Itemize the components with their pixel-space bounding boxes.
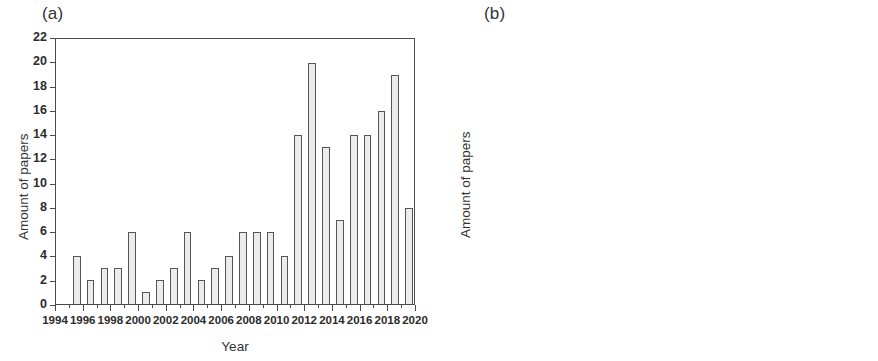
panel-b-y-axis-title: Amount of papers <box>458 131 473 238</box>
x-axis-major-tick <box>360 305 361 311</box>
x-axis-major-tick <box>221 305 222 311</box>
x-axis-major-tick <box>415 305 416 311</box>
x-axis-major-tick <box>83 305 84 311</box>
x-axis-major-tick <box>193 305 194 311</box>
x-axis-tick-label: 2006 <box>208 314 234 326</box>
x-axis-tick-label: 2014 <box>319 314 345 326</box>
bar <box>294 135 302 304</box>
x-axis-tick-label: 1994 <box>42 314 68 326</box>
y-axis-tick-label: 10 <box>11 176 47 190</box>
bar <box>170 268 178 304</box>
x-axis-tick-label: 2002 <box>153 314 179 326</box>
x-axis-major-tick <box>55 305 56 311</box>
x-axis-tick-label: 2008 <box>236 314 262 326</box>
bar <box>184 232 192 304</box>
y-axis-tick <box>50 38 55 39</box>
x-axis-minor-tick <box>263 305 264 308</box>
x-axis-major-tick <box>277 305 278 311</box>
x-axis-minor-tick <box>207 305 208 308</box>
y-axis-tick-label: 16 <box>11 103 47 117</box>
panel-a: (a) Amount of papers Year 02468101214161… <box>0 0 440 361</box>
bar <box>281 256 289 304</box>
x-axis-major-tick <box>138 305 139 311</box>
x-axis-tick-label: 1998 <box>98 314 124 326</box>
x-axis-minor-tick <box>124 305 125 308</box>
bar <box>128 232 136 304</box>
y-axis-tick-label: 8 <box>11 200 47 214</box>
x-axis-tick-label: 1996 <box>70 314 96 326</box>
bar <box>101 268 109 304</box>
panel-a-x-axis-title: Year <box>55 339 415 354</box>
bar <box>114 268 122 304</box>
bar <box>267 232 275 304</box>
x-axis-tick-label: 2020 <box>402 314 428 326</box>
y-axis-tick <box>50 281 55 282</box>
y-axis-tick-label: 2 <box>11 273 47 287</box>
y-axis-tick-label: 0 <box>11 297 47 311</box>
bar <box>142 292 150 304</box>
figure-two-bar-charts: (a) Amount of papers Year 02468101214161… <box>0 0 878 361</box>
bar <box>322 147 330 304</box>
x-axis-major-tick <box>332 305 333 311</box>
x-axis-major-tick <box>249 305 250 311</box>
panel-b: (b) Amount of papers Year 02468101214161… <box>440 0 878 361</box>
x-axis-minor-tick <box>152 305 153 308</box>
y-axis-tick <box>50 208 55 209</box>
bar <box>364 135 372 304</box>
y-axis-tick <box>50 111 55 112</box>
y-axis-tick-label: 20 <box>11 54 47 68</box>
y-axis-tick <box>50 232 55 233</box>
x-axis-tick-label: 2012 <box>291 314 317 326</box>
bar <box>308 63 316 304</box>
y-axis-tick-label: 6 <box>11 224 47 238</box>
x-axis-minor-tick <box>401 305 402 308</box>
panel-a-label: (a) <box>42 4 63 24</box>
bar <box>211 268 219 304</box>
bar <box>87 280 95 304</box>
bar <box>198 280 206 304</box>
y-axis-tick <box>50 256 55 257</box>
y-axis-tick <box>50 135 55 136</box>
x-axis-minor-tick <box>318 305 319 308</box>
x-axis-tick-label: 2004 <box>181 314 207 326</box>
x-axis-tick-label: 2000 <box>125 314 151 326</box>
y-axis-tick <box>50 159 55 160</box>
x-axis-major-tick <box>304 305 305 311</box>
x-axis-tick-label: 2010 <box>264 314 290 326</box>
x-axis-tick-label: 2016 <box>347 314 373 326</box>
panel-a-plot-area <box>55 38 415 305</box>
bar <box>391 75 399 304</box>
x-axis-tick-label: 2018 <box>375 314 401 326</box>
y-axis-tick-label: 18 <box>11 79 47 93</box>
bar <box>239 232 247 304</box>
x-axis-major-tick <box>110 305 111 311</box>
x-axis-minor-tick <box>69 305 70 308</box>
bar <box>336 220 344 304</box>
x-axis-minor-tick <box>180 305 181 308</box>
bar <box>225 256 233 304</box>
bar <box>378 111 386 304</box>
y-axis-tick-label: 12 <box>11 151 47 165</box>
y-axis-tick <box>50 87 55 88</box>
x-axis-minor-tick <box>235 305 236 308</box>
bar <box>405 208 413 304</box>
x-axis-minor-tick <box>346 305 347 308</box>
y-axis-tick-label: 22 <box>11 30 47 44</box>
x-axis-major-tick <box>387 305 388 311</box>
y-axis-tick-label: 4 <box>11 248 47 262</box>
y-axis-tick <box>50 62 55 63</box>
panel-a-bar-series <box>56 39 414 304</box>
bar <box>350 135 358 304</box>
x-axis-minor-tick <box>97 305 98 308</box>
bar <box>253 232 261 304</box>
y-axis-tick-label: 14 <box>11 127 47 141</box>
y-axis-tick <box>50 184 55 185</box>
bar <box>73 256 81 304</box>
bar <box>156 280 164 304</box>
x-axis-major-tick <box>166 305 167 311</box>
x-axis-minor-tick <box>373 305 374 308</box>
x-axis-minor-tick <box>290 305 291 308</box>
panel-b-label: (b) <box>484 4 505 24</box>
